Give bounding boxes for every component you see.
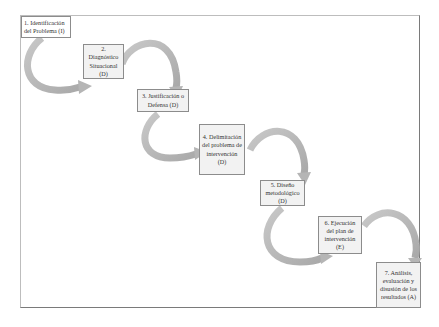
step-2-box: 2. Diagnóstico Situacional (D) xyxy=(83,44,124,79)
step-3-label: 3. Justificación o Defensa (D) xyxy=(140,92,186,108)
arrow-6-to-7-icon xyxy=(364,213,422,268)
step-6-label: 6. Ejecución del plan de intervención (E… xyxy=(321,219,359,252)
step-7-label: 7. Análisis, evaluación y disusión de lo… xyxy=(379,269,418,302)
step-6-box: 6. Ejecución del plan de intervención (E… xyxy=(318,216,362,254)
step-1-label: 1. Identificación del Problema (I) xyxy=(24,19,68,35)
step-7-box: 7. Análisis, evaluación y disusión de lo… xyxy=(376,262,421,308)
step-4-box: 4. Delimitación del problema de interven… xyxy=(199,124,245,175)
step-5-box: 5. Diseño metodológico (D) xyxy=(260,180,305,206)
step-5-label: 5. Diseño metodológico (D) xyxy=(263,181,302,206)
step-2-label: 2. Diagnóstico Situacional (D) xyxy=(86,45,121,78)
step-1-box: 1. Identificación del Problema (I) xyxy=(21,16,71,38)
step-4-label: 4. Delimitación del problema de interven… xyxy=(202,133,242,166)
step-3-box: 3. Justificación o Defensa (D) xyxy=(137,89,189,112)
arrow-4-to-5-icon xyxy=(250,131,311,185)
arrow-3-to-4-icon xyxy=(145,114,207,160)
